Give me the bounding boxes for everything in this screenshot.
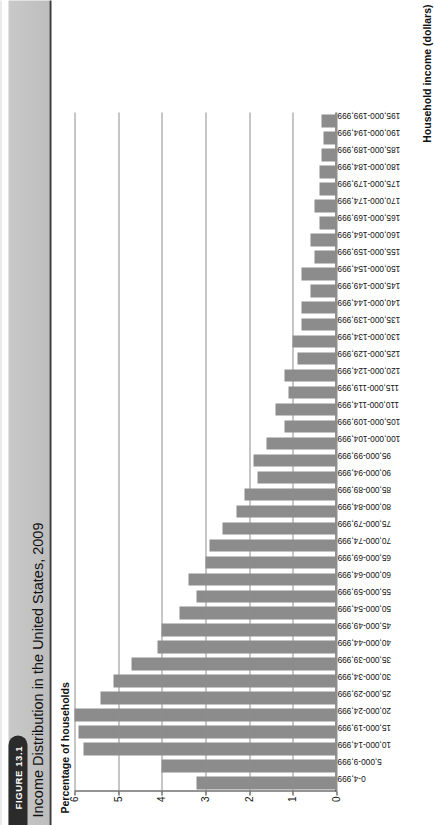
category-label: 110,000-114,999 [337, 399, 403, 409]
bar [113, 674, 336, 687]
bar [275, 403, 336, 416]
bar [321, 114, 336, 127]
category-label: 10,000-14,999 [337, 739, 395, 749]
bar [301, 301, 336, 314]
y-tick-mark [161, 791, 162, 795]
y-tick-mark [336, 791, 337, 795]
bar [253, 454, 336, 467]
y-tick-mark [249, 791, 250, 795]
category-label: 140,000-144,999 [337, 297, 404, 307]
category-label: 50,000-54,999 [337, 603, 395, 613]
bar [319, 216, 336, 229]
category-label: 40,000-44,999 [337, 637, 395, 647]
y-tick-label: 6 [69, 796, 80, 802]
bar [310, 233, 336, 246]
category-label: 190,000-194,999 [337, 127, 404, 137]
bar [292, 335, 336, 348]
figure-number-badge: FIGURE 13.1 [8, 735, 27, 825]
bar [288, 386, 336, 399]
category-label: 0-4,999 [337, 773, 369, 783]
category-label: 25,000-29,999 [337, 688, 395, 698]
category-label: 170,000-174,999 [337, 195, 404, 205]
figure-page: FIGURE 13.1 Income Distribution in the U… [0, 0, 434, 825]
category-label: 70,000-74,999 [337, 535, 395, 545]
rotated-figure: FIGURE 13.1 Income Distribution in the U… [0, 0, 434, 825]
bar [222, 522, 336, 535]
bar [310, 284, 336, 297]
category-label: 165,000-169,999 [337, 212, 404, 222]
y-tick-label: 0 [331, 796, 342, 802]
figure-title: Income Distribution in the United States… [29, 522, 45, 817]
bar [205, 556, 336, 569]
category-label: 60,000-64,999 [337, 569, 395, 579]
bar [257, 471, 336, 484]
top-divider [0, 0, 1, 825]
bar [78, 725, 336, 738]
bar [321, 148, 336, 161]
category-label: 5,000-9,999 [337, 756, 385, 766]
category-label: 85,000-89,999 [337, 484, 395, 494]
category-label: 20,000-24,999 [337, 705, 395, 715]
category-label: 95,000-99,999 [337, 450, 395, 460]
y-tick-mark [205, 791, 206, 795]
bar [301, 318, 336, 331]
bar [266, 437, 336, 450]
chart-area: Percentage of households Household incom… [52, 0, 434, 825]
category-label: 65,000-69,999 [337, 552, 395, 562]
category-label: 90,000-94,999 [337, 467, 395, 477]
category-label: 195,000-199,999 [337, 111, 404, 121]
gridline [74, 112, 75, 791]
category-label: 155,000-159,999 [337, 246, 404, 256]
category-label: 100,000-104,999 [337, 433, 404, 443]
category-label: 180,000-184,999 [337, 161, 404, 171]
y-tick-label: 4 [156, 796, 167, 802]
category-label: 175,000-179,999 [337, 178, 404, 188]
gridline [118, 112, 119, 791]
y-tick-label: 3 [200, 796, 211, 802]
category-label: 160,000-164,999 [337, 229, 404, 239]
category-labels: 0-4,9995,000-9,99910,000-14,99915,000-19… [337, 112, 433, 791]
category-label: 35,000-39,999 [337, 654, 395, 664]
bar [319, 165, 336, 178]
header-rule [49, 0, 51, 825]
bar [196, 590, 336, 603]
y-tick-label: 1 [287, 796, 298, 802]
y-tick-label: 5 [112, 796, 123, 802]
gridline [249, 112, 250, 791]
category-label: 15,000-19,999 [337, 722, 395, 732]
gridline [205, 112, 206, 791]
plot-grid: 0123456 [74, 112, 336, 791]
bar [301, 267, 336, 280]
y-tick-mark [118, 791, 119, 795]
category-label: 115,000-119,999 [337, 382, 403, 392]
y-tick-mark [292, 791, 293, 795]
category-label: 145,000-149,999 [337, 280, 404, 290]
bar [284, 369, 336, 382]
category-label: 30,000-34,999 [337, 671, 395, 681]
category-label: 45,000-49,999 [337, 620, 395, 630]
bar [314, 199, 336, 212]
bar [157, 640, 336, 653]
gridline [161, 112, 162, 791]
bar [319, 182, 336, 195]
category-label: 75,000-79,999 [337, 518, 395, 528]
y-tick-mark [74, 791, 75, 795]
category-label: 105,000-109,999 [337, 416, 404, 426]
category-label: 185,000-189,999 [337, 144, 404, 154]
category-label: 125,000-129,999 [337, 348, 404, 358]
y-axis-label: Percentage of households [58, 682, 70, 813]
bar [179, 607, 336, 620]
category-label: 135,000-139,999 [337, 314, 404, 324]
bar [297, 352, 336, 365]
bar [314, 250, 336, 263]
bar [284, 420, 336, 433]
bar [83, 742, 336, 755]
category-label: 55,000-59,999 [337, 586, 395, 596]
category-label: 150,000-154,999 [337, 263, 404, 273]
bar [188, 573, 336, 586]
bar [100, 691, 336, 704]
category-label: 120,000-124,999 [337, 365, 404, 375]
gridline [292, 112, 293, 791]
bar [244, 488, 336, 501]
category-label: 80,000-84,999 [337, 501, 395, 511]
